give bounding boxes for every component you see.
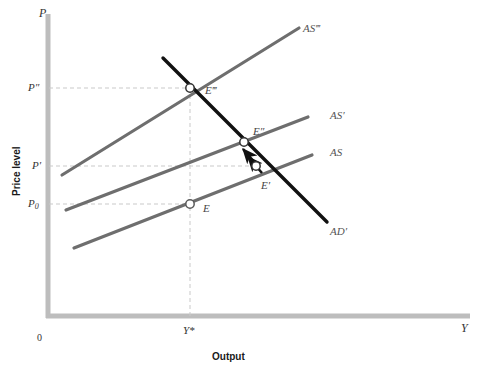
as-triple-prime-curve — [62, 28, 299, 175]
point-label-e: E — [203, 203, 210, 214]
diagram-canvas — [0, 0, 487, 380]
y-tick-p-double-prime: P″ — [28, 82, 39, 93]
curve-label-as-triple-prime: AS‴ — [303, 23, 320, 34]
origin-label: 0 — [37, 333, 42, 343]
as-ad-diagram: P Y 0 Price level Output P″ P′ P0 Y* AS‴… — [0, 0, 487, 380]
x-axis-symbol: Y — [461, 322, 468, 334]
point-label-e-prime: E′ — [261, 180, 270, 191]
curve-label-ad-prime: AD′ — [330, 226, 347, 237]
x-tick-y-star: Y* — [183, 325, 195, 336]
y-tick-p-zero-subscript: 0 — [35, 202, 39, 211]
point-marker-e-double-prime — [240, 138, 248, 146]
point-marker-e — [186, 200, 194, 208]
curve-label-as-prime: AS′ — [330, 110, 345, 121]
y-axis-title: Price level — [12, 147, 22, 196]
point-label-e-double-prime: E″ — [253, 126, 264, 137]
y-tick-p-zero-base: P — [28, 197, 35, 209]
as-prime-curve — [66, 117, 308, 210]
y-tick-p-prime: P′ — [32, 160, 41, 171]
x-axis-title: Output — [212, 352, 245, 362]
point-marker-e-triple-prime — [186, 84, 194, 92]
point-label-e-triple-prime: E‴ — [205, 85, 216, 96]
y-axis-symbol: P — [39, 7, 46, 19]
point-marker-e-prime — [252, 162, 260, 170]
y-tick-p-zero: P0 — [28, 198, 39, 211]
curve-label-as: AS — [330, 147, 342, 158]
